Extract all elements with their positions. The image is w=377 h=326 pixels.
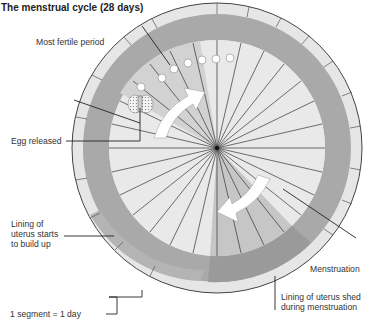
diagram-title: The menstrual cycle (28 days) (1, 2, 143, 13)
label-most-fertile: Most fertile period (36, 37, 104, 47)
menstrual-cycle-diagram (0, 0, 377, 326)
label-segment-scale: 1 segment = 1 day (10, 309, 81, 319)
label-lining-shed: Lining of uterus shed during menstruatio… (281, 292, 361, 312)
label-menstruation: Menstruation (310, 264, 360, 274)
ovary-icon (128, 95, 153, 113)
label-egg-released: Egg released (11, 136, 62, 146)
label-lining-builds: Lining of uterus starts to build up (11, 219, 58, 249)
hub (215, 146, 219, 150)
